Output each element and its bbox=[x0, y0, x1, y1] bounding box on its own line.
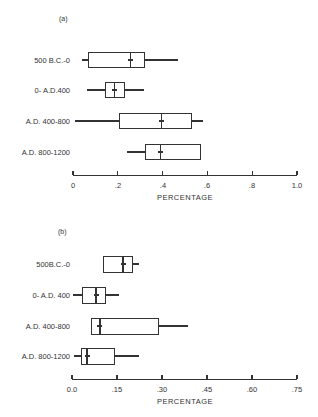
tick-label: .15 bbox=[112, 385, 122, 394]
panel-b: (b) 500B.C.-0 0- A.D. 400 A.D. 400-800 A… bbox=[0, 0, 318, 417]
tick-label: .60 bbox=[247, 385, 257, 394]
x-tick bbox=[161, 375, 162, 379]
row-label: 0- A.D. 400 bbox=[32, 291, 70, 300]
mean-marker bbox=[94, 294, 99, 295]
tick-label: .30 bbox=[157, 385, 167, 394]
x-axis-b bbox=[72, 379, 297, 380]
box-iqr bbox=[103, 256, 133, 273]
whisker-high bbox=[106, 294, 119, 295]
panel-label-b: (b) bbox=[58, 228, 67, 235]
row-label: A.D. 800-1200 bbox=[22, 352, 70, 361]
x-tick bbox=[251, 375, 252, 379]
x-tick bbox=[296, 375, 297, 379]
mean-marker bbox=[85, 355, 90, 356]
whisker-high bbox=[115, 355, 139, 356]
whisker-low bbox=[74, 355, 81, 356]
mean-marker bbox=[97, 325, 102, 326]
mean-marker bbox=[121, 263, 126, 264]
x-axis-title-b: PERCENTAGE bbox=[157, 397, 213, 406]
whisker-low bbox=[73, 294, 82, 295]
x-tick bbox=[206, 375, 207, 379]
tick-label: .45 bbox=[202, 385, 212, 394]
x-tick bbox=[71, 375, 72, 379]
whisker-high bbox=[159, 325, 188, 326]
tick-label: .75 bbox=[292, 385, 302, 394]
tick-label: 0.0 bbox=[67, 385, 77, 394]
whisker-high bbox=[133, 263, 139, 264]
x-tick bbox=[116, 375, 117, 379]
row-label: 500B.C.-0 bbox=[36, 260, 70, 269]
row-label: A.D. 400-800 bbox=[26, 322, 70, 331]
